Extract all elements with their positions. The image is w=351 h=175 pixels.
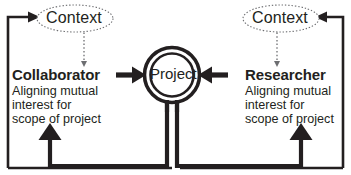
caption-clip bbox=[0, 170, 351, 175]
researcher-description: Aligning mutual interest for scope of pr… bbox=[245, 84, 334, 127]
diagram-canvas: Context Context Project Collaborator Ali… bbox=[0, 0, 351, 175]
collaborator-description: Aligning mutual interest for scope of pr… bbox=[12, 84, 101, 127]
edge-context-left-to-collaborator bbox=[81, 33, 87, 68]
edge-researcher-to-project bbox=[198, 67, 228, 84]
project-label: Project bbox=[150, 66, 197, 81]
context-left-label: Context bbox=[46, 10, 102, 26]
researcher-title: Researcher bbox=[245, 67, 326, 82]
collaborator-title: Collaborator bbox=[12, 67, 100, 82]
context-right-label: Context bbox=[252, 10, 308, 26]
edge-collaborator-to-project bbox=[116, 67, 146, 84]
edge-context-right-to-researcher bbox=[274, 33, 280, 68]
